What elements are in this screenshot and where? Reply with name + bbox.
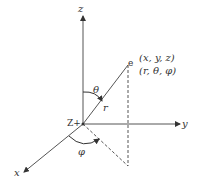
z-axis-label: z [77,3,84,14]
origin-point [82,123,85,126]
cartesian-coords-label: (x, y, z) [139,52,175,63]
theta-label: θ [93,84,99,95]
spherical-coords-label: (r, θ, φ) [139,65,176,76]
ground-projection [83,124,128,166]
origin-label: Z+ [67,118,81,128]
radius-vector [83,65,128,124]
phi-label: φ [78,146,85,157]
point-label: e [128,58,133,68]
spherical-coordinates-diagram: z y x Z+ e (x, y, z) (r, θ, φ) r θ φ [0,0,198,186]
phi-arc [69,136,99,144]
radius-label: r [103,102,109,113]
x-axis [24,124,83,172]
y-axis-label: y [181,118,188,129]
x-axis-label: x [14,167,20,178]
